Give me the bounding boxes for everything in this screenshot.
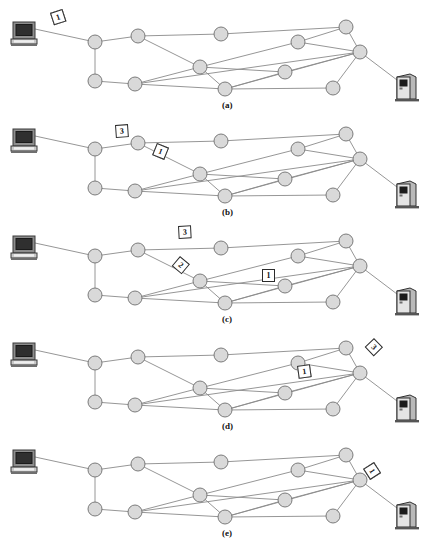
source-access-link <box>35 350 95 363</box>
router-node-n7 <box>278 65 292 79</box>
router-node-n7 <box>278 493 292 507</box>
network-edge <box>138 34 221 36</box>
packet-1: 1 <box>297 364 312 379</box>
router-node-n10 <box>218 296 232 310</box>
router-node-n10 <box>218 510 232 524</box>
packet-3: 3 <box>115 124 129 138</box>
network-edge <box>200 67 285 72</box>
network-edge <box>225 179 285 196</box>
network-edge <box>138 36 200 67</box>
router-node-n11 <box>326 188 340 202</box>
source-computer-icon <box>11 343 37 367</box>
network-nodes <box>88 341 367 417</box>
network-graph-c <box>0 214 431 321</box>
router-node-n0 <box>88 35 102 49</box>
source-computer-icon <box>11 129 37 153</box>
network-panel-d: 321(d) <box>0 321 431 428</box>
figure-canvas: 321(a)321(b)321(c)321(d)321(e) <box>0 0 431 541</box>
router-node-n8 <box>88 502 102 516</box>
destination-server-icon <box>395 395 419 422</box>
network-edge <box>298 42 360 52</box>
destination-server-icon <box>395 74 419 101</box>
network-edge <box>225 88 333 89</box>
router-node-n1 <box>131 29 145 43</box>
network-edge <box>138 464 200 495</box>
router-node-n0 <box>88 463 102 477</box>
destination-server-icon <box>395 288 419 315</box>
network-edge <box>225 72 285 89</box>
router-node-n9 <box>128 184 142 198</box>
router-node-n4 <box>339 127 353 141</box>
network-edge <box>135 298 225 303</box>
router-node-n5 <box>353 366 367 380</box>
network-edge <box>135 174 200 191</box>
network-edge <box>135 159 360 191</box>
network-edge <box>298 256 360 266</box>
router-node-n10 <box>218 189 232 203</box>
source-computer-icon <box>11 22 37 46</box>
network-nodes <box>88 234 367 310</box>
network-edge <box>135 512 225 517</box>
network-nodes <box>88 448 367 524</box>
router-node-n2 <box>214 455 228 469</box>
network-graph-d <box>0 321 431 428</box>
network-edge <box>135 281 200 298</box>
router-node-n1 <box>131 243 145 257</box>
router-node-n6 <box>193 60 207 74</box>
panel-label-e: (e) <box>222 528 232 538</box>
packet-1: 1 <box>262 269 275 282</box>
network-edge <box>225 302 333 303</box>
router-node-n7 <box>278 386 292 400</box>
router-node-n4 <box>339 20 353 34</box>
network-edge <box>225 409 333 410</box>
router-node-n9 <box>128 291 142 305</box>
router-node-n0 <box>88 356 102 370</box>
router-node-n4 <box>339 341 353 355</box>
router-node-n1 <box>131 136 145 150</box>
network-edge <box>225 195 333 196</box>
router-node-n4 <box>339 448 353 462</box>
network-graph-e <box>0 428 431 535</box>
network-edge <box>138 462 221 464</box>
network-edge <box>135 373 360 405</box>
router-node-n11 <box>326 295 340 309</box>
router-node-n9 <box>128 77 142 91</box>
router-node-n2 <box>214 27 228 41</box>
router-node-n3 <box>291 142 305 156</box>
router-node-n4 <box>339 234 353 248</box>
router-node-n6 <box>193 381 207 395</box>
network-panel-e: 321(e) <box>0 428 431 535</box>
router-node-n6 <box>193 488 207 502</box>
network-edge <box>135 480 360 512</box>
router-node-n9 <box>128 505 142 519</box>
network-edge <box>200 174 285 179</box>
network-panel-a: 321(a) <box>0 0 431 107</box>
router-node-n2 <box>214 134 228 148</box>
router-node-n10 <box>218 82 232 96</box>
source-access-link <box>35 457 95 470</box>
router-node-n5 <box>353 45 367 59</box>
source-computer-icon <box>11 450 37 474</box>
network-graph-b <box>0 107 431 214</box>
router-node-n3 <box>291 463 305 477</box>
network-panel-c: 321(c) <box>0 214 431 321</box>
router-node-n11 <box>326 81 340 95</box>
network-nodes <box>88 127 367 203</box>
network-edge <box>135 388 200 405</box>
network-panel-b: 321(b) <box>0 107 431 214</box>
network-edge <box>298 470 360 480</box>
network-edge <box>200 388 285 393</box>
router-node-n0 <box>88 249 102 263</box>
router-node-n2 <box>214 241 228 255</box>
router-node-n7 <box>278 279 292 293</box>
router-node-n5 <box>353 259 367 273</box>
router-node-n6 <box>193 167 207 181</box>
packet-3: 3 <box>178 225 192 239</box>
source-computer-icon <box>11 236 37 260</box>
router-node-n3 <box>291 35 305 49</box>
network-edge <box>135 405 225 410</box>
router-node-n10 <box>218 403 232 417</box>
source-access-link <box>35 243 95 256</box>
network-edge <box>138 141 221 143</box>
network-edge <box>135 495 200 512</box>
